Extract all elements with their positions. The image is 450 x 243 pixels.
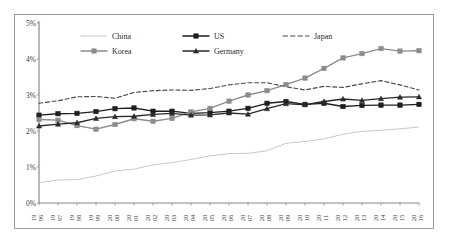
data-point-us bbox=[94, 109, 98, 113]
x-tick-label-group: 2011 bbox=[315, 214, 329, 221]
data-point-korea bbox=[94, 127, 98, 131]
data-point-korea bbox=[265, 88, 269, 92]
x-tick-label-year: 97 bbox=[56, 214, 63, 221]
data-point-us bbox=[37, 113, 41, 117]
line-chart: 0%1%2%3%4%5%1996199719981999200020012002… bbox=[15, 15, 433, 228]
data-point-korea bbox=[284, 82, 288, 86]
x-tick-label-group: 2014 bbox=[372, 214, 386, 221]
data-point-korea bbox=[303, 76, 307, 80]
x-tick-label-year: 08 bbox=[265, 214, 272, 221]
data-point-korea bbox=[227, 99, 231, 103]
x-tick-label-year: 05 bbox=[208, 214, 215, 221]
x-tick-label-year: 07 bbox=[246, 214, 253, 221]
x-tick-label-year: 10 bbox=[303, 214, 310, 221]
legend-item-germany[interactable]: Germany bbox=[183, 47, 244, 56]
legend-label-korea: Korea bbox=[112, 47, 132, 56]
x-tick-label-group: 2006 bbox=[220, 214, 234, 221]
data-point-us bbox=[379, 103, 383, 107]
x-tick-label-group: 1999 bbox=[87, 214, 101, 221]
x-tick-label-year: 99 bbox=[94, 214, 101, 221]
data-point-korea bbox=[151, 119, 155, 123]
data-point-us bbox=[132, 106, 136, 110]
y-tick-label: 1% bbox=[26, 163, 36, 172]
x-tick-label-group: 2001 bbox=[125, 214, 139, 221]
x-tick-label-group: 2008 bbox=[258, 214, 272, 221]
x-tick-label-year: 98 bbox=[75, 214, 82, 221]
data-point-us bbox=[113, 106, 117, 110]
data-point-korea bbox=[417, 49, 421, 53]
x-tick-label-group: 1997 bbox=[49, 214, 63, 221]
data-point-korea bbox=[208, 106, 212, 110]
x-tick-label-group: 2002 bbox=[144, 214, 158, 221]
chart-legend: ChinaUSJapanKoreaGermany bbox=[81, 32, 332, 56]
data-point-korea bbox=[379, 46, 383, 50]
data-point-korea bbox=[37, 117, 41, 121]
x-tick-label-year: 12 bbox=[341, 215, 348, 222]
chart-figure: 0%1%2%3%4%5%1996199719981999200020012002… bbox=[14, 14, 434, 229]
data-point-korea bbox=[360, 51, 364, 55]
x-tick-label-group: 1998 bbox=[68, 214, 82, 221]
data-point-korea-legend bbox=[92, 49, 96, 53]
x-tick-label-year: 02 bbox=[151, 215, 158, 222]
data-point-us bbox=[417, 102, 421, 106]
x-tick-label-year: 03 bbox=[170, 214, 177, 221]
data-point-korea bbox=[398, 49, 402, 53]
data-point-korea bbox=[322, 66, 326, 70]
x-tick-label-group: 2015 bbox=[391, 214, 405, 221]
x-tick-label-group: 1996 bbox=[30, 214, 44, 221]
y-tick-label: 5% bbox=[26, 19, 36, 28]
data-point-us bbox=[56, 112, 60, 116]
series-china bbox=[39, 127, 419, 183]
data-point-us bbox=[360, 103, 364, 107]
legend-item-china[interactable]: China bbox=[81, 32, 132, 41]
legend-label-china: China bbox=[112, 32, 132, 41]
data-point-us-legend bbox=[194, 34, 198, 38]
x-tick-label-group: 2005 bbox=[201, 214, 215, 221]
x-tick-label-year: 14 bbox=[379, 214, 386, 221]
x-tick-label-group: 2013 bbox=[353, 214, 367, 221]
y-tick-label: 0% bbox=[26, 199, 36, 208]
legend-item-japan[interactable]: Japan bbox=[283, 32, 332, 41]
x-tick-label-year: 04 bbox=[189, 214, 196, 221]
data-point-us bbox=[341, 104, 345, 108]
x-tick-label-year: 13 bbox=[360, 214, 367, 221]
chart-plot-area: 0%1%2%3%4%5%1996199719981999200020012002… bbox=[15, 15, 433, 228]
data-point-korea bbox=[170, 116, 174, 120]
x-tick-label-group: 2007 bbox=[239, 214, 253, 221]
data-point-korea bbox=[113, 122, 117, 126]
data-point-us bbox=[398, 103, 402, 107]
data-point-korea bbox=[341, 56, 345, 60]
x-tick-label-group: 2004 bbox=[182, 214, 196, 221]
legend-label-japan: Japan bbox=[314, 32, 332, 41]
x-tick-label-group: 2000 bbox=[106, 214, 120, 221]
data-point-korea bbox=[246, 93, 250, 97]
data-point-us bbox=[246, 106, 250, 110]
y-tick-label: 4% bbox=[26, 55, 36, 64]
data-point-us bbox=[75, 111, 79, 115]
legend-item-korea[interactable]: Korea bbox=[81, 47, 132, 56]
x-tick-label-year: 15 bbox=[398, 214, 405, 221]
x-tick-label-group: 2009 bbox=[277, 214, 291, 221]
series-line-china bbox=[39, 127, 419, 183]
legend-label-us: US bbox=[214, 32, 224, 41]
legend-item-us[interactable]: US bbox=[183, 32, 224, 41]
x-tick-label-group: 2012 bbox=[334, 214, 348, 221]
x-tick-label-group: 2010 bbox=[296, 214, 310, 221]
x-tick-label-year: 96 bbox=[37, 214, 44, 221]
x-tick-label-year: 06 bbox=[227, 214, 234, 221]
x-tick-label-year: 00 bbox=[113, 214, 120, 221]
y-tick-label: 3% bbox=[26, 91, 36, 100]
x-tick-label-group: 2016 bbox=[410, 214, 424, 221]
legend-label-germany: Germany bbox=[214, 47, 244, 56]
x-tick-label-year: 11 bbox=[322, 215, 329, 221]
data-point-us bbox=[265, 101, 269, 105]
x-tick-label-group: 2003 bbox=[163, 214, 177, 221]
x-tick-label-year: 16 bbox=[417, 214, 424, 221]
x-tick-label-year: 01 bbox=[132, 215, 139, 222]
y-tick-label: 2% bbox=[26, 127, 36, 136]
x-tick-label-year: 09 bbox=[284, 214, 291, 221]
